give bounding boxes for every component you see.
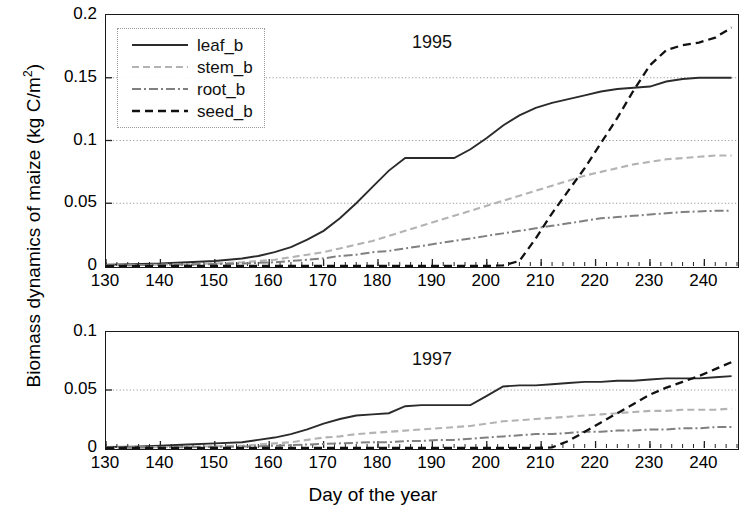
- x-tick-label: 140: [134, 453, 184, 473]
- x-tick-label: 210: [515, 453, 565, 473]
- y-tick-label: 0.1: [35, 130, 97, 150]
- x-tick-label: 180: [352, 453, 402, 473]
- y-tick-label: 0.05: [35, 379, 97, 399]
- x-tick-label: 200: [461, 453, 511, 473]
- legend-label-root: root_b: [197, 81, 245, 98]
- legend-swatch-root: [130, 82, 190, 96]
- y-axis-title-superscript: 2: [21, 70, 35, 77]
- x-tick-label: 220: [570, 271, 620, 291]
- legend-item-root[interactable]: root_b: [122, 78, 260, 100]
- panel-title-1997: 1997: [412, 349, 452, 370]
- y-tick-label: 0.1: [35, 321, 97, 341]
- y-tick-label: 0.05: [35, 192, 97, 212]
- x-tick-label: 150: [189, 271, 239, 291]
- y-tick-label: 0.2: [35, 4, 97, 24]
- x-tick-label: 190: [406, 271, 456, 291]
- x-tick-label: 220: [570, 453, 620, 473]
- x-tick-label: 230: [624, 271, 674, 291]
- x-axis-title: Day of the year: [0, 484, 746, 506]
- legend-swatch-seed: [130, 104, 190, 118]
- series-line-stem-b: [106, 156, 732, 266]
- series-line-root-b: [106, 211, 732, 266]
- legend-swatch-stem: [130, 60, 190, 74]
- x-tick-label: 240: [678, 271, 728, 291]
- x-tick-label: 130: [80, 453, 130, 473]
- x-tick-label: 180: [352, 271, 402, 291]
- legend-item-seed[interactable]: seed_b: [122, 100, 260, 122]
- x-tick-label: 160: [243, 271, 293, 291]
- x-tick-label: 230: [624, 453, 674, 473]
- x-tick-label: 140: [134, 271, 184, 291]
- legend: leaf_b stem_b root_b seed_b: [117, 28, 265, 128]
- panel-title-1995: 1995: [412, 32, 452, 53]
- x-tick-label: 240: [678, 453, 728, 473]
- x-tick-label: 200: [461, 271, 511, 291]
- x-tick-label: 130: [80, 271, 130, 291]
- x-tick-label: 210: [515, 271, 565, 291]
- legend-label-stem: stem_b: [197, 59, 253, 76]
- x-tick-label: 170: [298, 453, 348, 473]
- legend-swatch-leaf: [130, 38, 190, 52]
- x-tick-label: 150: [189, 453, 239, 473]
- x-tick-label: 170: [298, 271, 348, 291]
- figure-root: Biomass dynamics of maize (kg C/m2) 1995…: [0, 0, 746, 522]
- x-tick-label: 160: [243, 453, 293, 473]
- legend-item-stem[interactable]: stem_b: [122, 56, 260, 78]
- legend-item-leaf[interactable]: leaf_b: [122, 34, 260, 56]
- legend-label-seed: seed_b: [197, 103, 253, 120]
- x-tick-label: 190: [406, 453, 456, 473]
- legend-label-leaf: leaf_b: [197, 37, 243, 54]
- y-tick-label: 0.15: [35, 67, 97, 87]
